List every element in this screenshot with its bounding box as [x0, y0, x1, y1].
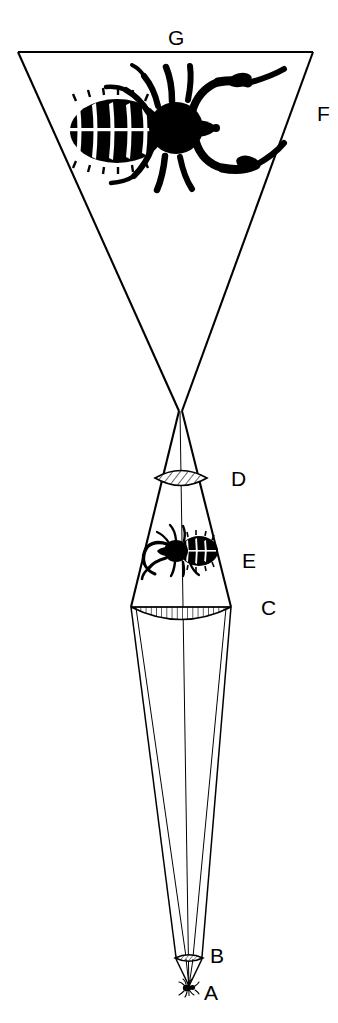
objective-lens-B-body [175, 955, 203, 962]
virtual-ray-right [182, 52, 313, 411]
eyepiece-ray-cone-group [131, 411, 231, 607]
objective-lens-B [175, 955, 203, 962]
label-C: C [261, 596, 276, 619]
ray-node-to-fieldlens-right [182, 411, 231, 607]
microscope-ray-diagram-figure: G F D E C B A [0, 0, 338, 1023]
label-A: A [204, 981, 218, 1004]
ray-diagram-canvas: G F D E C B A [0, 0, 338, 1023]
label-E: E [242, 549, 256, 572]
intermediate-image-E-silhouette [142, 525, 218, 579]
ray-node-to-fieldlens-left [131, 411, 179, 607]
objective-ray-cone-group [131, 607, 231, 957]
label-G: G [168, 26, 184, 49]
field-lens-C [131, 607, 231, 620]
optical-axis-line [180, 411, 189, 996]
ray-fieldlens-left-to-objective [131, 607, 176, 957]
label-B: B [210, 944, 224, 967]
label-D: D [231, 467, 246, 490]
field-lens-C-body [131, 607, 231, 620]
ray-fieldlens-right-to-objective [202, 607, 231, 957]
label-F: F [317, 102, 330, 125]
ray-inner-left [136, 608, 186, 957]
magnified-image-G-silhouette [70, 65, 284, 190]
ray-inner-right [193, 608, 226, 957]
